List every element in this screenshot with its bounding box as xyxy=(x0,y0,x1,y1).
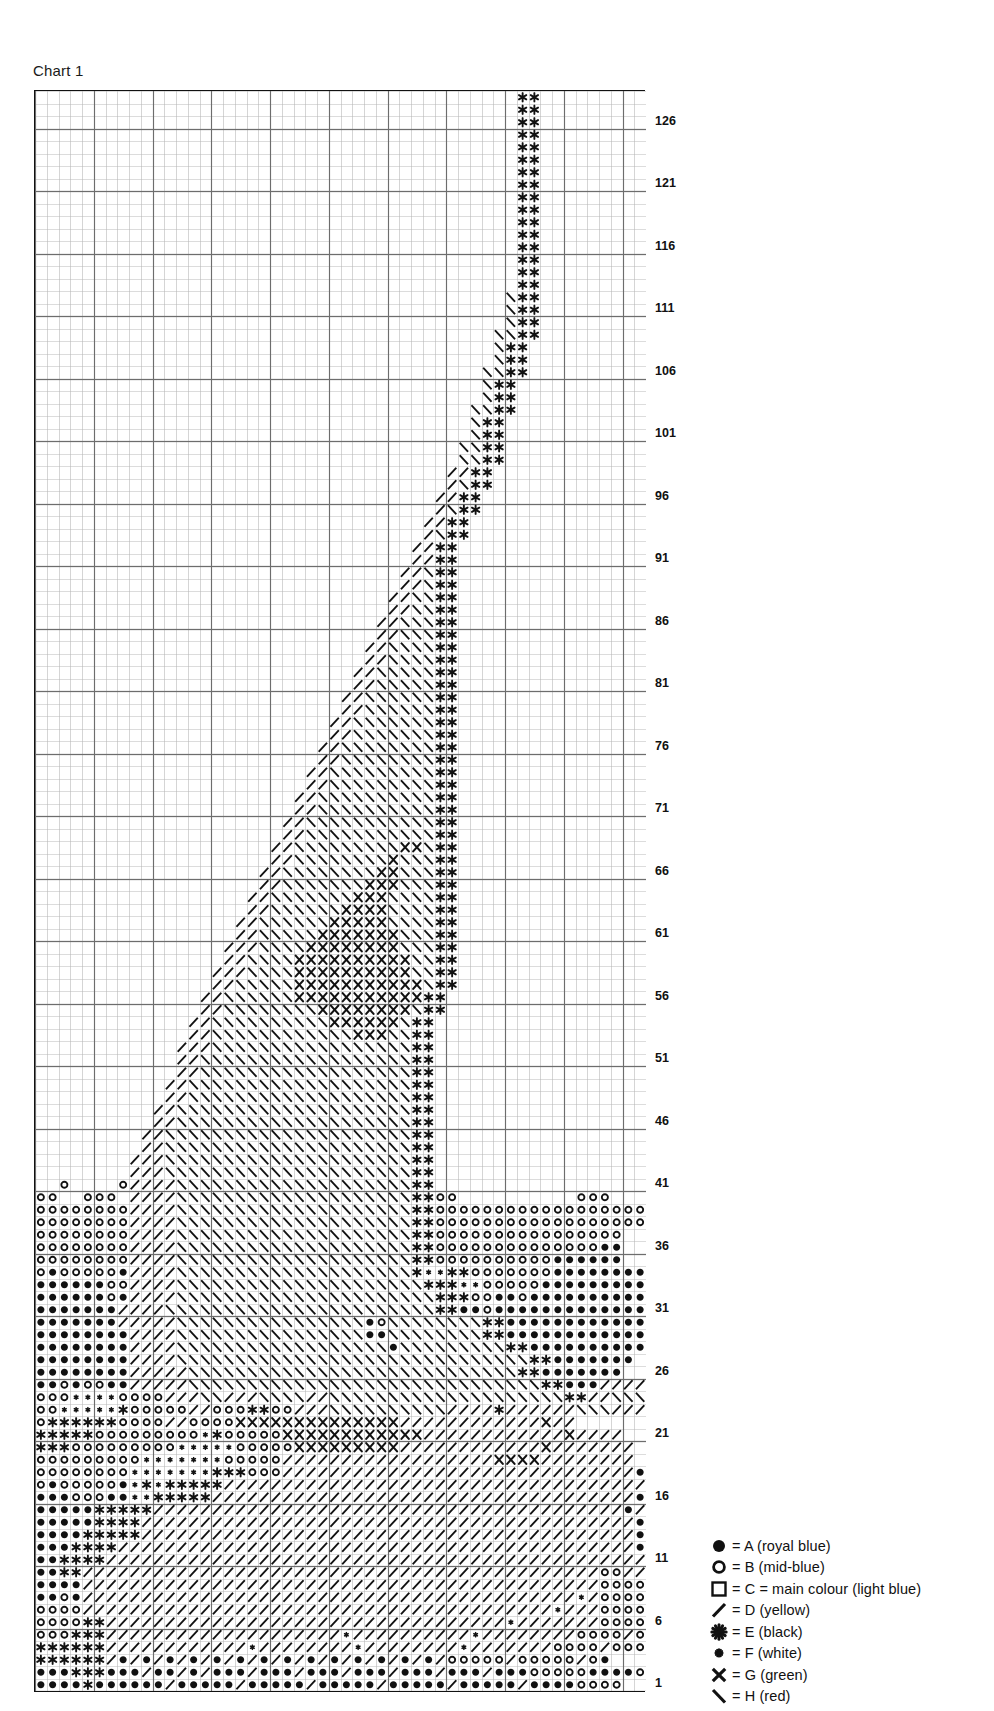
row-number-label: 61 xyxy=(655,927,669,940)
row-number-label: 6 xyxy=(655,1615,662,1628)
row-number-label: 126 xyxy=(655,115,676,128)
legend-item-label: = G (green) xyxy=(732,1667,808,1683)
row-number-label: 66 xyxy=(655,865,669,878)
legend-item-label: = C = main colour (light blue) xyxy=(732,1581,921,1597)
legend-item-label: = A (royal blue) xyxy=(732,1538,831,1554)
legend-item-a: = A (royal blue) xyxy=(706,1535,986,1557)
pattern-chart-grid xyxy=(34,90,645,1692)
open-circle-icon xyxy=(706,1557,732,1579)
row-number-label: 36 xyxy=(655,1240,669,1253)
row-number-label: 71 xyxy=(655,802,669,815)
row-number-label: 76 xyxy=(655,740,669,753)
legend-item-label: = F (white) xyxy=(732,1645,802,1661)
legend-item-label: = D (yellow) xyxy=(732,1602,810,1618)
row-number-label: 121 xyxy=(655,177,676,190)
row-number-label: 21 xyxy=(655,1427,669,1440)
row-number-label: 16 xyxy=(655,1490,669,1503)
row-number-label: 96 xyxy=(655,490,669,503)
legend-item-d: = D (yellow) xyxy=(706,1600,986,1622)
legend: = A (royal blue)= B (mid-blue)= C = main… xyxy=(706,1535,986,1707)
row-number-label: 56 xyxy=(655,990,669,1003)
back-slash-icon xyxy=(706,1686,732,1708)
legend-item-g: = G (green) xyxy=(706,1664,986,1686)
row-number-label: 116 xyxy=(655,240,675,253)
row-number-label: 81 xyxy=(655,677,669,690)
row-number-label: 11 xyxy=(655,1552,668,1565)
row-number-label: 91 xyxy=(655,552,669,565)
legend-item-label: = H (red) xyxy=(732,1688,791,1704)
big-asterisk-icon xyxy=(706,1621,732,1643)
open-square-icon xyxy=(706,1578,732,1600)
row-number-label: 106 xyxy=(655,365,676,378)
legend-item-c: = C = main colour (light blue) xyxy=(706,1578,986,1600)
legend-item-h: = H (red) xyxy=(706,1686,986,1708)
pattern-chart-canvas xyxy=(35,91,646,1691)
row-number-label: 1 xyxy=(655,1677,662,1690)
row-number-label: 51 xyxy=(655,1052,669,1065)
row-number-label: 26 xyxy=(655,1365,669,1378)
legend-item-e: = E (black) xyxy=(706,1621,986,1643)
legend-item-label: = B (mid-blue) xyxy=(732,1559,825,1575)
legend-item-label: = E (black) xyxy=(732,1624,803,1640)
cross-x-icon xyxy=(706,1664,732,1686)
small-asterisk-icon xyxy=(706,1643,732,1665)
legend-item-b: = B (mid-blue) xyxy=(706,1557,986,1579)
row-number-label: 46 xyxy=(655,1115,669,1128)
row-number-label: 31 xyxy=(655,1302,669,1315)
row-number-axis: 1611162126313641465156616671768186919610… xyxy=(655,90,725,1692)
filled-circle-icon xyxy=(706,1535,732,1557)
row-number-label: 41 xyxy=(655,1177,669,1190)
row-number-label: 111 xyxy=(655,302,674,315)
row-number-label: 86 xyxy=(655,615,669,628)
row-number-label: 101 xyxy=(655,427,676,440)
page-title: Chart 1 xyxy=(33,62,84,79)
forward-slash-icon xyxy=(706,1600,732,1622)
legend-item-f: = F (white) xyxy=(706,1643,986,1665)
